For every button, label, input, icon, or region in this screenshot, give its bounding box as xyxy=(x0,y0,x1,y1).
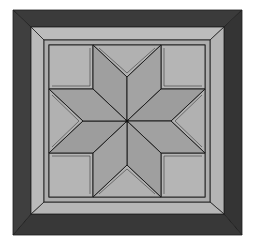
corner-square-bottom-right xyxy=(161,153,205,197)
outer-border-top xyxy=(13,10,242,27)
inner-border-right xyxy=(210,27,224,214)
corner-square-top-right xyxy=(161,45,205,89)
star-center xyxy=(125,119,128,122)
inner-border-left xyxy=(31,27,44,214)
outer-border-left xyxy=(13,10,31,235)
inner-border-bottom xyxy=(31,202,224,214)
quilt-block xyxy=(0,0,253,243)
outer-border-right xyxy=(224,10,242,235)
inner-border-top xyxy=(31,27,224,40)
outer-border-bottom xyxy=(13,214,242,235)
corner-square-bottom-left xyxy=(49,153,93,197)
corner-square-top-left xyxy=(49,45,93,89)
